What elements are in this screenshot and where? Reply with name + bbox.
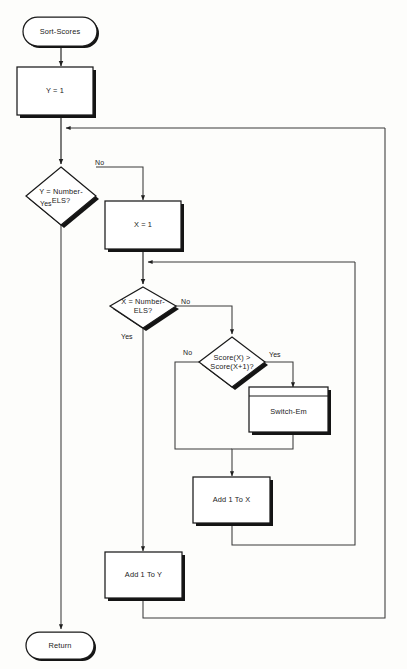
edge-label-decide-x-yes: Yes xyxy=(121,333,133,340)
flowchart-canvas: Sort-Scores Y = 1 Y = Number- ELS? X = 1… xyxy=(0,0,407,669)
edge-label-decide-y-no: No xyxy=(95,159,104,166)
decide-x-label-line1: X = Number- xyxy=(121,297,165,306)
node-add-y[interactable]: Add 1 To Y xyxy=(105,552,185,601)
edge-decide-score-yes-to-switch-em xyxy=(265,362,293,387)
decide-score-label-line2: Score(X+1)? xyxy=(210,362,253,371)
node-decide-score[interactable]: Score(X) > Score(X+1)? xyxy=(199,337,268,390)
edge-decide-y-no-to-init-x xyxy=(96,167,143,200)
edge-switch-em-to-add-x xyxy=(232,434,293,476)
node-decide-y[interactable]: Y = Number- ELS? xyxy=(26,167,99,228)
add-y-label: Add 1 To Y xyxy=(125,570,162,579)
node-decide-x[interactable]: X = Number- ELS? xyxy=(110,287,179,331)
decide-score-label-line1: Score(X) > xyxy=(213,353,250,362)
edge-label-decide-x-no: No xyxy=(181,298,190,305)
flowchart-svg: Sort-Scores Y = 1 Y = Number- ELS? X = 1… xyxy=(0,0,407,669)
edge-decide-x-no-to-decide-score xyxy=(176,306,232,334)
decide-x-label-line2: ELS? xyxy=(134,306,153,315)
node-init-x[interactable]: X = 1 xyxy=(105,201,184,252)
node-start[interactable]: Sort-Scores xyxy=(23,17,99,48)
init-y-label: Y = 1 xyxy=(46,86,64,95)
decide-y-label-line2: ELS? xyxy=(52,196,71,205)
edge-label-decide-y-yes: Yes xyxy=(40,200,52,207)
edge-label-decide-score-no: No xyxy=(183,349,192,356)
switch-em-label: Switch-Em xyxy=(270,407,307,416)
decide-y-label-line1: Y = Number- xyxy=(39,187,83,196)
connectors xyxy=(61,47,385,629)
end-label: Return xyxy=(48,641,71,650)
node-init-y[interactable]: Y = 1 xyxy=(17,67,96,118)
node-switch-em[interactable]: Switch-Em xyxy=(249,387,331,435)
init-x-label: X = 1 xyxy=(134,220,152,229)
node-add-x[interactable]: Add 1 To X xyxy=(193,477,273,526)
add-x-label: Add 1 To X xyxy=(213,495,251,504)
start-label: Sort-Scores xyxy=(40,27,81,36)
edge-label-decide-score-yes: Yes xyxy=(269,351,281,358)
node-end[interactable]: Return xyxy=(26,632,96,661)
